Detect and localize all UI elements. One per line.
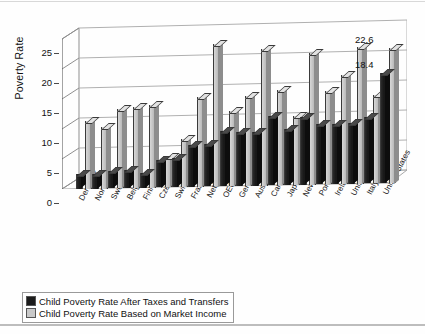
- y-tick-mark: [54, 53, 59, 54]
- bar-after-taxes: [76, 174, 81, 188]
- y-tick-mark: [54, 83, 59, 84]
- bar-side: [321, 120, 326, 184]
- bar-side: [289, 125, 294, 185]
- bar-side: [337, 120, 342, 184]
- bar-after-taxes: [172, 158, 177, 187]
- y-tick-label: 10: [30, 138, 52, 147]
- bar-side: [209, 141, 214, 187]
- y-tick-label: 5: [30, 168, 52, 177]
- bar-value-label: 18.4: [355, 59, 374, 70]
- scan-artifact-top: [0, 1, 425, 2]
- scan-artifact-bottom: [0, 324, 425, 326]
- bar-after-taxes: [108, 171, 113, 188]
- bar-after-taxes: [124, 170, 129, 188]
- x-axis-labels: DenmarkNorwaySwedenBelgiumFinlandCzech R…: [0, 188, 425, 284]
- y-tick-label: 25: [30, 48, 52, 57]
- chart-legend: Child Poverty Rate After Taxes and Trans…: [22, 292, 234, 323]
- legend-label-market-income: Child Poverty Rate Based on Market Incom…: [39, 308, 226, 319]
- bar-top: [85, 117, 100, 124]
- bar-top: [245, 92, 260, 99]
- bar-top: [101, 123, 116, 130]
- bar-after-taxes: [300, 117, 305, 184]
- bar-side: [257, 128, 262, 186]
- bar-side: [225, 127, 230, 186]
- bar-after-taxes: [332, 124, 337, 184]
- legend-item: Child Poverty Rate After Taxes and Trans…: [26, 295, 228, 307]
- bar-side: [241, 128, 246, 186]
- bar-side: [369, 114, 374, 184]
- bar-top: [197, 93, 212, 100]
- legend-label-after-taxes: Child Poverty Rate After Taxes and Trans…: [39, 296, 228, 307]
- bar-after-taxes: [220, 131, 225, 186]
- bar-side: [305, 114, 310, 185]
- bar-after-taxes: [380, 73, 385, 183]
- bar-after-taxes: [236, 132, 241, 186]
- bar-side: [273, 112, 278, 185]
- bar-top: [149, 101, 164, 108]
- bar-side: [353, 119, 358, 184]
- y-tick-label: 20: [30, 78, 52, 87]
- bar-top: [277, 86, 292, 93]
- bar-after-taxes: [348, 123, 353, 184]
- y-tick-label: 15: [30, 108, 52, 117]
- chart-figure: Poverty Rate 0510152025 22.618.4 Denmark…: [0, 0, 425, 334]
- bar-value-label: 22.6: [355, 34, 374, 45]
- bar-top: [117, 105, 132, 112]
- bar-after-taxes: [92, 174, 97, 189]
- y-tick-mark: [54, 113, 59, 114]
- bar-side: [385, 69, 390, 183]
- bar-after-taxes: [188, 145, 193, 187]
- bar-after-taxes: [364, 117, 369, 183]
- bar-after-taxes: [204, 144, 209, 186]
- y-tick-mark: [54, 173, 59, 174]
- bar-after-taxes: [140, 173, 145, 188]
- y-axis-ticks: 0510152025: [24, 14, 60, 194]
- bar-top: [229, 107, 244, 114]
- bar-top: [325, 87, 340, 94]
- bar-after-taxes: [252, 132, 257, 186]
- bar-after-taxes: [284, 129, 289, 185]
- bar-side: [394, 44, 399, 184]
- bar-after-taxes: [268, 116, 273, 185]
- bar-top: [133, 103, 148, 110]
- bar-top: [341, 71, 356, 78]
- bar-top: [309, 49, 324, 56]
- plot-area: 22.618.4: [62, 14, 407, 189]
- legend-swatch-market-income: [26, 308, 36, 318]
- y-tick-mark: [54, 143, 59, 144]
- bar-top: [213, 40, 228, 47]
- bar-after-taxes: [316, 124, 321, 184]
- legend-swatch-after-taxes: [26, 296, 36, 306]
- bar-after-taxes: [156, 160, 161, 188]
- bar-top: [261, 45, 276, 52]
- legend-item: Child Poverty Rate Based on Market Incom…: [26, 307, 228, 319]
